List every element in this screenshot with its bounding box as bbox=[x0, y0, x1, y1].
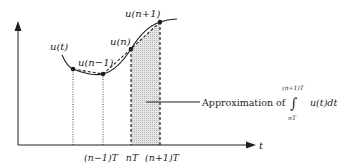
sample-point-n-plus-1 bbox=[158, 20, 163, 25]
integral-sign: ∫ bbox=[290, 95, 297, 111]
integrand: u(t)dt bbox=[310, 97, 337, 108]
tick-label-n-plus-1-T: (n+1)T bbox=[145, 152, 180, 163]
sample-point-1 bbox=[71, 67, 76, 72]
sample-point-n-minus-1 bbox=[101, 72, 106, 77]
tick-label-n-minus-1-T: (n−1)T bbox=[84, 152, 119, 163]
point-label-n-plus-1: u(n+1) bbox=[125, 8, 161, 19]
point-label-n: u(n) bbox=[110, 36, 131, 47]
y-axis-arrow-icon bbox=[15, 21, 22, 31]
integral-upper-limit: (n+1)T bbox=[282, 84, 304, 91]
x-axis-label: t bbox=[259, 140, 264, 151]
x-axis-arrow-icon bbox=[246, 142, 256, 149]
sample-point-n bbox=[129, 47, 134, 52]
tick-label-nT: nT bbox=[126, 152, 139, 163]
curve-label: u(t) bbox=[50, 41, 68, 52]
integration-diagram: u(t) u(n−1) u(n) u(n+1) (n−1)T nT (n+1)T… bbox=[0, 0, 351, 167]
point-label-n-minus-1: u(n−1) bbox=[78, 57, 114, 68]
integral-lower-limit: nT bbox=[288, 114, 297, 121]
annotation-text: Approximation of bbox=[201, 97, 287, 108]
shaded-trapezoid-area bbox=[131, 22, 160, 145]
